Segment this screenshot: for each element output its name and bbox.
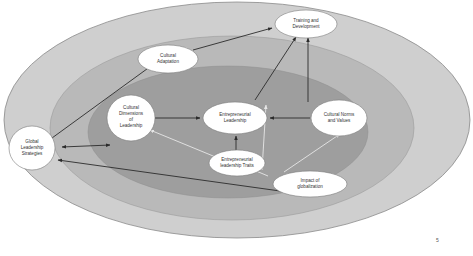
node-label-line: Cultural Norms	[324, 112, 355, 117]
node-training-and-development[interactable]: Training and Development	[275, 10, 337, 38]
node-label-line: Entrepreneurial	[219, 112, 250, 117]
node-label-line: Impact of	[301, 178, 321, 183]
node-global-leadership-strategies[interactable]: Global Leadership Strategies	[9, 126, 55, 170]
node-label-line: Leadership	[21, 145, 44, 150]
node-cultural-norms-and-values[interactable]: Cultural Norms and Values	[311, 100, 367, 136]
node-cultural-dimensions-of-leadership[interactable]: Cultural Dimensions of Leadership	[107, 95, 155, 141]
page-number: 5	[436, 237, 439, 243]
node-label-line: Training and	[293, 18, 319, 23]
node-label-line: and Values	[328, 118, 351, 123]
node-label-line: Entrepreneurial	[221, 157, 252, 162]
node-entrepreneurial-leadership[interactable]: Entrepreneurial Leadership	[203, 102, 267, 134]
node-label-line: Adaptation	[157, 59, 179, 64]
node-label-line: Cultural	[123, 105, 139, 110]
node-label-line: Dimensions	[119, 111, 144, 116]
leadership-framework-diagram: Global Leadership Strategies Cultural Ad…	[0, 0, 473, 256]
node-label-line: leadership Traits	[220, 163, 254, 168]
node-impact-of-globalization[interactable]: Impact of globalization	[273, 171, 347, 197]
node-label-line: Leadership	[120, 123, 143, 128]
node-label-line: Cultural	[160, 53, 176, 58]
node-label-line: globalization	[297, 184, 323, 189]
node-label-line: Leadership	[224, 118, 247, 123]
node-label-line: Development	[292, 24, 320, 29]
node-entrepreneurial-leadership-traits[interactable]: Entrepreneurial leadership Traits	[209, 150, 265, 176]
node-label-line: Global	[25, 139, 38, 144]
node-cultural-adaptation[interactable]: Cultural Adaptation	[138, 45, 198, 73]
node-label-line: Strategies	[22, 151, 43, 156]
